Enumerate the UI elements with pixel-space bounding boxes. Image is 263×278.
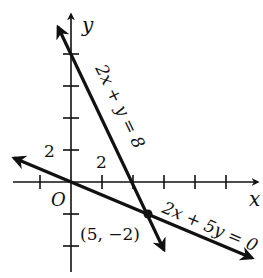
- line-label-2x-plus-y-eq-8: 2x + y = 8: [91, 60, 149, 152]
- intersection-label: (5, −2): [80, 224, 140, 244]
- intersection-point: [144, 210, 153, 219]
- origin-label: O: [51, 189, 66, 210]
- x-axis-label: x: [249, 187, 260, 211]
- graph-canvas: y x O 2 2 2x + y = 8 2x + 5y = 0 (5, −2): [0, 0, 263, 278]
- y-axis-label: y: [81, 13, 94, 37]
- y-tick-label-2: 2: [44, 141, 55, 161]
- x-tick-label-2: 2: [96, 152, 107, 172]
